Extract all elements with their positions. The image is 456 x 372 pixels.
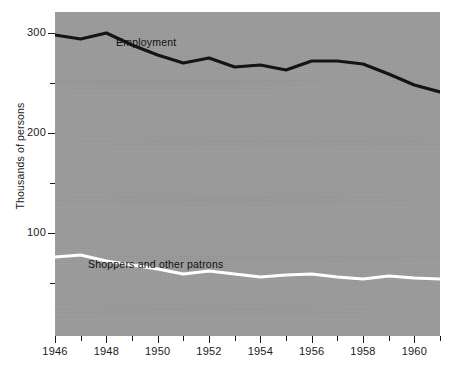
x-tick-label: 1948 — [83, 346, 129, 357]
x-tick-major — [158, 336, 159, 343]
x-tick-label: 1960 — [391, 346, 437, 357]
x-tick-minor — [440, 336, 441, 341]
x-tick-label: 1952 — [186, 346, 232, 357]
y-tick-minor — [50, 83, 55, 84]
x-tick-major — [312, 336, 313, 343]
x-tick-label: 1946 — [32, 346, 78, 357]
x-tick-major — [209, 336, 210, 343]
plot-area — [55, 12, 440, 336]
x-tick-label: 1956 — [289, 346, 335, 357]
x-tick-minor — [81, 336, 82, 341]
x-tick-label: 1950 — [135, 346, 181, 357]
series-layer — [55, 12, 440, 336]
y-tick-major — [48, 133, 55, 134]
y-tick-label: 300 — [6, 27, 46, 38]
x-tick-minor — [389, 336, 390, 341]
y-tick-label: 100 — [6, 227, 46, 238]
x-tick-major — [414, 336, 415, 343]
series-label-shoppers: Shoppers and other patrons — [88, 258, 223, 270]
x-tick-label: 1954 — [237, 346, 283, 357]
x-tick-major — [260, 336, 261, 343]
y-tick-minor — [50, 283, 55, 284]
series-label-employment: Employment — [116, 36, 176, 48]
x-tick-major — [363, 336, 364, 343]
x-tick-minor — [286, 336, 287, 341]
y-tick-minor — [50, 183, 55, 184]
y-tick-major — [48, 233, 55, 234]
y-axis-title: Thousands of persons — [14, 76, 26, 236]
x-tick-major — [106, 336, 107, 343]
series-line-employment — [55, 33, 440, 92]
x-tick-minor — [337, 336, 338, 341]
x-tick-minor — [132, 336, 133, 341]
y-tick-major — [48, 33, 55, 34]
chart-figure: Thousands of persons 100200300 194619481… — [0, 0, 456, 372]
x-tick-label: 1958 — [340, 346, 386, 357]
x-tick-minor — [235, 336, 236, 341]
x-tick-minor — [183, 336, 184, 341]
x-tick-major — [55, 336, 56, 343]
y-tick-label: 200 — [6, 127, 46, 138]
